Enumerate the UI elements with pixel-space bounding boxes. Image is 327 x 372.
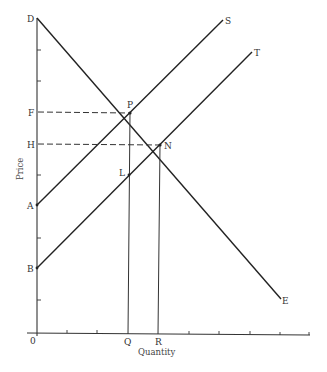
- quantity-axis: [27, 333, 310, 335]
- label-f: F: [28, 108, 34, 118]
- price-axis-ticks: [37, 50, 41, 300]
- point-l: [128, 174, 131, 177]
- price-line-f: [38, 112, 130, 113]
- label-p: P: [127, 100, 133, 110]
- label-n: N: [164, 141, 172, 151]
- point-n: [158, 143, 161, 146]
- label-r: R: [155, 337, 162, 347]
- label-s: S: [225, 16, 231, 26]
- label-origin: 0: [30, 336, 36, 346]
- quantity-line-r: [158, 145, 160, 334]
- label-l: L: [119, 168, 125, 178]
- point-b: [36, 267, 39, 270]
- point-a: [36, 204, 39, 207]
- label-q: Q: [124, 337, 131, 347]
- supply-curve-bt: [37, 52, 252, 268]
- label-t: T: [254, 48, 260, 58]
- label-d: D: [27, 14, 34, 24]
- label-h: H: [27, 140, 35, 150]
- y-axis-title: Price: [15, 158, 25, 180]
- supply-demand-diagram: D F H A B P N L S T E Q R 0 Quantity Pri…: [0, 0, 327, 372]
- label-e: E: [282, 296, 289, 306]
- x-axis-title: Quantity: [138, 347, 176, 357]
- point-p: [128, 111, 131, 114]
- quantity-line-q: [128, 113, 130, 334]
- label-a: A: [26, 201, 34, 211]
- label-b: B: [27, 264, 34, 274]
